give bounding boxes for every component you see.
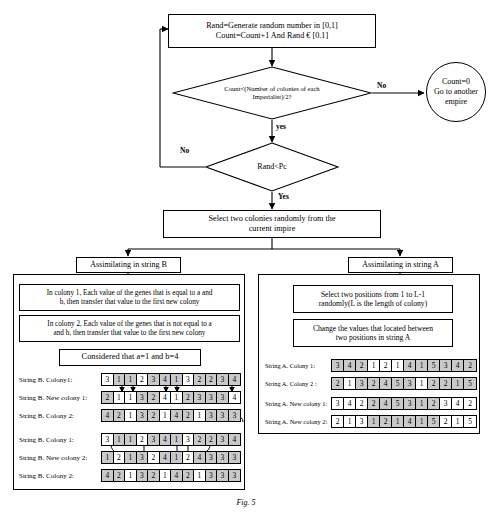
gene-cell: 4	[229, 392, 241, 403]
left-row-3-label: String B. Colony 1:	[19, 436, 101, 444]
decision1-line1: Count<(Number of colonies of each	[224, 85, 319, 93]
gene-cell: 3	[137, 410, 149, 421]
gene-cell: 3	[440, 398, 452, 409]
gene-cell: 2	[114, 410, 126, 421]
gene-cell: 1	[344, 378, 356, 389]
gene-cell: 5	[464, 378, 476, 389]
gene-cell: 3	[183, 434, 195, 445]
right-step1-line1: Select two positions from 1 to L-1	[319, 290, 427, 299]
decision1-no-label: No	[377, 81, 386, 90]
decision2-no-label: No	[180, 146, 189, 155]
gene-cell: 1	[344, 416, 356, 427]
gene-cell: 3	[356, 378, 368, 389]
considered-label: Considered that a=1 and b=4	[79, 351, 182, 364]
terminal-line3: empire	[434, 97, 478, 107]
gene-cell: 2	[356, 398, 368, 409]
right-step2-line2: two positions in string A	[313, 333, 433, 342]
right-string-row-2: String A. New colony 1: 342245312342	[265, 397, 477, 410]
gene-cell: 3	[217, 374, 229, 385]
terminal-line2: Go to another	[434, 87, 478, 97]
left-step1-box: In colony 1, Each value of the genes tha…	[19, 284, 240, 311]
right-row-1-label: String A. Colony 2 :	[265, 380, 331, 387]
gene-cell: 4	[160, 434, 172, 445]
gene-cell: 2	[332, 378, 344, 389]
gene-cell: 1	[125, 434, 137, 445]
gene-cell: 2	[206, 374, 218, 385]
gene-cell: 2	[183, 470, 195, 481]
gene-cell: 3	[194, 392, 206, 403]
right-panel: Select two positions from 1 to L-1 rando…	[258, 274, 480, 434]
gene-cell: 1	[452, 416, 464, 427]
rand-generate-line2: Count=Count+1 And Rand € [0.1]	[206, 31, 338, 41]
left-row-2-label: String B. Colony 2:	[19, 412, 101, 420]
right-row-3-cells: 213121415215	[331, 415, 477, 428]
right-step1-box: Select two positions from 1 to L-1 rando…	[293, 285, 453, 313]
gene-cell: 3	[206, 410, 218, 421]
gene-cell: 4	[160, 392, 172, 403]
gene-cell: 1	[160, 410, 172, 421]
right-step2-line1: Change the values that located between	[313, 324, 433, 333]
left-row-5-label: String B. Colony 2:	[19, 472, 101, 480]
gene-cell: 5	[428, 416, 440, 427]
gene-cell: 3	[229, 410, 241, 421]
gene-cell: 2	[137, 434, 149, 445]
gene-cell: 3	[332, 398, 344, 409]
gene-cell: 1	[125, 374, 137, 385]
select-colonies-line1: Select two colonies randomly from the	[208, 214, 335, 224]
left-row-4-label: String B. New colony 2:	[19, 454, 101, 462]
left-string-row-0: String B. Colony1: 311234132234	[19, 373, 241, 386]
gene-cell: 3	[148, 374, 160, 385]
gene-cell: 3	[356, 416, 368, 427]
gene-cell: 1	[114, 434, 126, 445]
considered-box: Considered that a=1 and b=4	[59, 349, 201, 366]
gene-cell: 4	[380, 378, 392, 389]
right-step2-box: Change the values that located between t…	[293, 319, 453, 347]
decision2-text: Rand<Pc	[257, 162, 286, 172]
right-row-3-label: String A. New colony 2:	[265, 418, 331, 425]
gene-cell: 4	[160, 374, 172, 385]
gene-cell: 1	[171, 374, 183, 385]
gene-cell: 1	[125, 410, 137, 421]
left-row-2-cells: 421321421333	[101, 409, 241, 422]
gene-cell: 2	[183, 410, 195, 421]
gene-cell: 4	[452, 398, 464, 409]
left-string-row-1: String B. New colony 1: 211324123334	[19, 391, 241, 404]
gene-cell: 2	[148, 452, 160, 463]
gene-cell: 3	[148, 434, 160, 445]
assimilating-string-a-box: Assimilating in string A	[348, 257, 453, 273]
gene-cell: 3	[332, 360, 344, 371]
assimilating-a-label: Assimilating in string A	[359, 259, 442, 271]
gene-cell: 1	[392, 360, 404, 371]
gene-cell: 3	[137, 470, 149, 481]
gene-cell: 3	[206, 452, 218, 463]
gene-cell: 5	[392, 398, 404, 409]
left-row-5-cells: 421321421333	[101, 469, 241, 482]
gene-cell: 4	[344, 398, 356, 409]
gene-cell: 2	[368, 378, 380, 389]
left-row-4-cells: 121324124333	[101, 451, 241, 464]
gene-cell: 4	[229, 434, 241, 445]
gene-cell: 2	[194, 374, 206, 385]
gene-cell: 2	[380, 416, 392, 427]
gene-cell: 2	[183, 452, 195, 463]
gene-cell: 4	[452, 360, 464, 371]
gene-cell: 1	[392, 416, 404, 427]
gene-cell: 2	[440, 416, 452, 427]
left-row-0-cells: 311234132234	[101, 373, 241, 386]
right-string-row-0: String A. Colony 1: 342121415342	[265, 359, 477, 372]
gene-cell: 3	[229, 470, 241, 481]
gene-cell: 1	[114, 374, 126, 385]
gene-cell: 1	[194, 410, 206, 421]
right-row-0-cells: 342121415342	[331, 359, 477, 372]
gene-cell: 4	[344, 360, 356, 371]
right-row-2-cells: 342245312342	[331, 397, 477, 410]
left-string-row-3: String B. Colony 1: 311234132234	[19, 433, 241, 446]
left-row-1-cells: 211324123334	[101, 391, 241, 404]
decision2-yes-label: Yes	[278, 192, 289, 201]
gene-cell: 3	[217, 452, 229, 463]
decision1-line2: Imperialist)/2?	[224, 93, 319, 101]
gene-cell: 3	[206, 392, 218, 403]
gene-cell: 1	[368, 360, 380, 371]
left-step1-line2: b, then transfer that value to the first…	[47, 298, 213, 307]
left-row-1-label: String B. New colony 1:	[19, 394, 101, 402]
